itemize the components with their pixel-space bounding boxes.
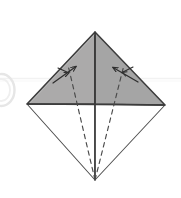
figure-root xyxy=(0,0,181,198)
origami-fold-diagram xyxy=(0,0,181,198)
horizontal-crease-line xyxy=(27,104,165,105)
